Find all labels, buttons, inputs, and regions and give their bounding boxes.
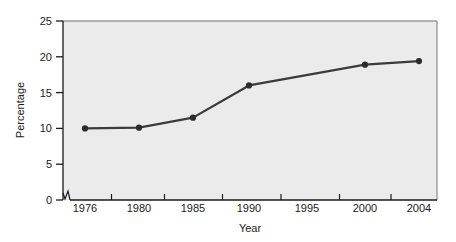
x-tick-label-2004: 2004 <box>407 202 431 214</box>
chart-container: 0 5 10 15 20 25 Percentage 1976 1980 198… <box>0 0 456 242</box>
y-tick-label-20: 20 <box>40 51 52 63</box>
plot-area-background <box>63 21 437 200</box>
x-tick-label-1985: 1985 <box>181 202 205 214</box>
y-tick-label-0: 0 <box>46 194 52 206</box>
data-point-1985 <box>190 115 196 121</box>
data-point-1980 <box>136 125 142 131</box>
x-tick-label-1980: 1980 <box>127 202 151 214</box>
data-point-1976 <box>82 125 88 131</box>
y-tick-label-25: 25 <box>40 15 52 27</box>
y-axis-title: Percentage <box>14 82 26 138</box>
y-tick-label-5: 5 <box>46 158 52 170</box>
x-tick-label-1976: 1976 <box>73 202 97 214</box>
data-point-2004 <box>416 58 422 64</box>
x-axis-title: Year <box>239 222 262 234</box>
x-tick-label-1990: 1990 <box>237 202 261 214</box>
data-point-2000 <box>362 62 368 68</box>
x-tick-label-2000: 2000 <box>353 202 377 214</box>
x-tick-label-1995: 1995 <box>295 202 319 214</box>
line-chart: 0 5 10 15 20 25 Percentage 1976 1980 198… <box>0 0 456 242</box>
y-tick-label-10: 10 <box>40 122 52 134</box>
y-tick-label-15: 15 <box>40 87 52 99</box>
data-point-1990 <box>246 82 252 88</box>
